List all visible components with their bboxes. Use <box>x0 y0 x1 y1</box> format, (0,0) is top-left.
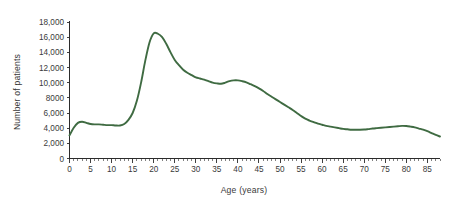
y-tick-label: 4,000 <box>44 124 65 133</box>
y-tick-label: 10,000 <box>39 79 64 88</box>
y-axis-group: 02,0004,0006,000800010,00012,00014,00016… <box>12 18 70 164</box>
data-series-group <box>70 33 441 137</box>
y-tick-label: 6,000 <box>44 109 65 118</box>
y-tick-label: 8000 <box>46 94 65 103</box>
x-tick-label: 0 <box>67 165 72 174</box>
y-tick-label: 2,000 <box>44 139 65 148</box>
data-line-1 <box>70 33 441 137</box>
y-tick-label: 12,000 <box>39 64 64 73</box>
line-chart: 02,0004,0006,000800010,00012,00014,00016… <box>0 0 452 206</box>
x-tick-label: 10 <box>107 165 117 174</box>
x-tick-label: 30 <box>191 165 201 174</box>
x-tick-label: 50 <box>275 165 285 174</box>
y-tick-label: 0 <box>59 155 64 164</box>
x-tick-label: 75 <box>381 165 391 174</box>
x-axis-tick-labels: 0510152025303540455055606570758085 <box>67 165 432 174</box>
y-tick-label: 16,000 <box>39 33 64 42</box>
x-tick-label: 65 <box>339 165 349 174</box>
x-tick-label: 85 <box>423 165 433 174</box>
x-tick-label: 15 <box>128 165 138 174</box>
x-tick-label: 5 <box>88 165 93 174</box>
x-tick-label: 80 <box>402 165 412 174</box>
x-axis-ticks <box>70 159 428 163</box>
x-axis-title: Age (years) <box>221 185 268 195</box>
x-axis-group: 0510152025303540455055606570758085 Age (… <box>67 159 440 196</box>
y-tick-label: 18,000 <box>39 18 64 27</box>
y-axis-tick-labels: 02,0004,0006,000800010,00012,00014,00016… <box>39 18 64 164</box>
x-tick-label: 55 <box>297 165 307 174</box>
y-tick-label: 14,000 <box>39 48 64 57</box>
y-axis-title: Number of patients <box>12 54 22 130</box>
x-tick-label: 40 <box>233 165 243 174</box>
x-tick-label: 45 <box>254 165 264 174</box>
chart-figure: 02,0004,0006,000800010,00012,00014,00016… <box>0 0 452 206</box>
x-tick-label: 60 <box>318 165 328 174</box>
x-tick-label: 20 <box>149 165 159 174</box>
x-tick-label: 25 <box>170 165 180 174</box>
x-tick-label: 70 <box>360 165 370 174</box>
x-tick-label: 35 <box>212 165 222 174</box>
